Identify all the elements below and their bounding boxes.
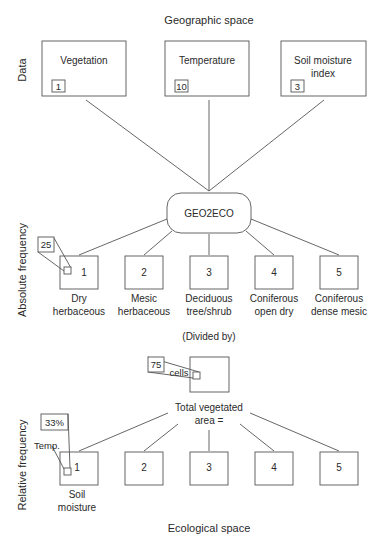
relative-class-4: 4 [255, 452, 293, 485]
class-label-line2: herbaceous [53, 306, 105, 317]
class-label-line2: open dry [255, 306, 294, 317]
class-number: 1 [74, 462, 80, 473]
data-value: 1 [56, 81, 61, 92]
grid-cell [64, 468, 71, 475]
class-number: 5 [336, 267, 342, 278]
data-value: 10 [176, 81, 187, 92]
soil-moisture-axis-line2: moisture [58, 502, 97, 513]
absolute-class-5: 5 Coniferous dense mesic [311, 256, 367, 317]
class-label-line1: Coniferous [315, 293, 363, 304]
absolute-class-2: 2 Mesic herbaceous [118, 256, 170, 317]
class-label-line1: Dry [71, 293, 87, 304]
class-number: 3 [206, 462, 212, 473]
data-layer-name-line2: index [311, 68, 335, 79]
process-label: GEO2ECO [184, 208, 234, 219]
absolute-frequency-axis-label: Absolute frequency [16, 222, 28, 317]
relative-class-5: 5 [320, 452, 358, 485]
connector-line [86, 100, 209, 191]
class-number: 4 [271, 462, 277, 473]
relative-class-3: 3 [190, 452, 228, 485]
class-number: 3 [206, 267, 212, 278]
geo2eco-node: GEO2ECO [167, 193, 251, 233]
absolute-count-callout: 25 [38, 237, 71, 274]
data-layer-name: Vegetation [60, 55, 107, 66]
grid-cell [193, 372, 200, 379]
connector-line [79, 219, 167, 255]
absolute-class-1: 1 Dry herbaceous [53, 256, 105, 317]
soil-moisture-axis-line1: Soil [69, 489, 86, 500]
class-label-line2: herbaceous [118, 306, 170, 317]
callout-value: 33% [45, 417, 65, 428]
data-layer-temperature: Temperature 10 [165, 41, 249, 96]
connector-line [251, 219, 339, 255]
class-number: 1 [81, 267, 87, 278]
connector-line [240, 424, 274, 451]
class-label-line1: Deciduous [185, 293, 232, 304]
class-number: 4 [271, 267, 277, 278]
class-number: 2 [141, 267, 147, 278]
data-value: 3 [295, 81, 300, 92]
total-area-label-line2: area = [195, 415, 224, 426]
grid-cell [64, 267, 71, 274]
connector-line [246, 231, 274, 255]
absolute-class-3: 3 Deciduous tree/shrub [185, 256, 232, 317]
class-label-line2: tree/shrub [186, 306, 231, 317]
class-number: 5 [336, 462, 342, 473]
data-layer-vegetation: Vegetation 1 [42, 41, 126, 96]
data-layer-name: Temperature [179, 55, 236, 66]
callout-unit: cells [169, 367, 188, 378]
connector-line [144, 231, 172, 255]
callout-value: 25 [41, 239, 52, 250]
class-number: 2 [141, 462, 147, 473]
ecological-space-title: Ecological space [168, 522, 251, 534]
callout-label: Temp. [34, 440, 60, 451]
data-layer-soil-moisture: Soil moisture index 3 [281, 41, 366, 96]
geo2eco-diagram: Geographic space Data Absolute frequency… [0, 0, 382, 541]
connector-line [250, 413, 339, 451]
connector-line [79, 413, 168, 451]
connector-line [209, 100, 324, 191]
data-layer-name: Soil moisture [294, 55, 352, 66]
divided-by-label: (Divided by) [182, 331, 235, 342]
absolute-class-4: 4 Coniferous open dry [250, 256, 298, 317]
relative-frequency-axis-label: Relative frequency [16, 419, 28, 511]
class-label-line2: dense mesic [311, 306, 367, 317]
data-axis-label: Data [16, 58, 28, 82]
connector-line [144, 424, 178, 451]
relative-class-2: 2 [125, 452, 163, 485]
class-label-line1: Coniferous [250, 293, 298, 304]
geographic-space-title: Geographic space [164, 14, 253, 26]
total-area-label-line1: Total vegetated [175, 402, 243, 413]
class-label-line1: Mesic [131, 293, 157, 304]
callout-value: 75 [151, 359, 162, 370]
